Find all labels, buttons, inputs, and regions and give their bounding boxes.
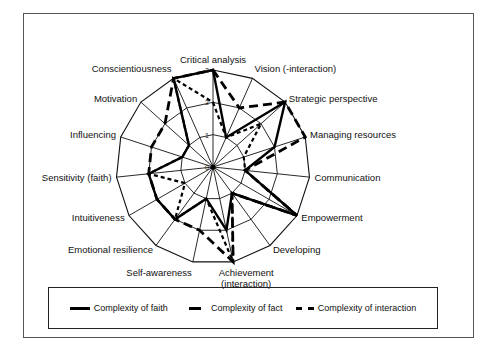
- axis-label: Developing: [273, 244, 321, 255]
- legend: Complexity of faith Complexity of fact C…: [48, 287, 438, 329]
- legend-item-interaction: Complexity of interaction: [296, 303, 417, 313]
- tick-labels: 0123: [205, 67, 209, 171]
- grid-spoke: [213, 102, 285, 167]
- axis-label: Intuitiveness: [72, 212, 125, 223]
- grid-spoke: [174, 78, 213, 167]
- tick-label: 3: [205, 67, 209, 74]
- axis-label: Critical analysis: [180, 54, 246, 65]
- axis-label: Conscientiousness: [92, 63, 172, 74]
- axis-label: Empowerment: [301, 212, 363, 223]
- tick-label: 2: [205, 99, 209, 106]
- axis-label: Self-awareness: [126, 267, 192, 278]
- tick-label: 0: [205, 164, 209, 171]
- center-point: [211, 165, 216, 170]
- axis-label: Influencing: [70, 129, 116, 140]
- radar-grid: [117, 70, 310, 262]
- legend-label: Complexity of faith: [94, 303, 168, 313]
- axis-labels: Critical analysisVision (-interaction)St…: [42, 54, 396, 289]
- long-dash-line-icon: [189, 307, 201, 310]
- axis-label: Communication: [314, 172, 380, 183]
- legend-item-fact: Complexity of fact: [181, 303, 283, 313]
- solid-line-icon: [70, 307, 90, 310]
- axis-label: Emotional resilience: [68, 244, 153, 255]
- grid-spoke: [121, 137, 213, 167]
- axis-label: Sensitivity (faith): [42, 172, 112, 183]
- short-dash-line-icon: [296, 307, 314, 310]
- axis-label: Vision (-interaction): [254, 63, 336, 74]
- tick-label: 1: [205, 132, 209, 139]
- legend-label: Complexity of interaction: [318, 303, 417, 313]
- axis-label: Motivation: [94, 93, 137, 104]
- axis-label: Strategic perspective: [289, 93, 378, 104]
- axis-label: Achievement(interaction): [219, 267, 274, 289]
- series-short-dash: [149, 78, 297, 261]
- axis-label: Managing resources: [310, 129, 396, 140]
- legend-item-faith: Complexity of faith: [70, 303, 168, 313]
- legend-label: Complexity of fact: [211, 303, 283, 313]
